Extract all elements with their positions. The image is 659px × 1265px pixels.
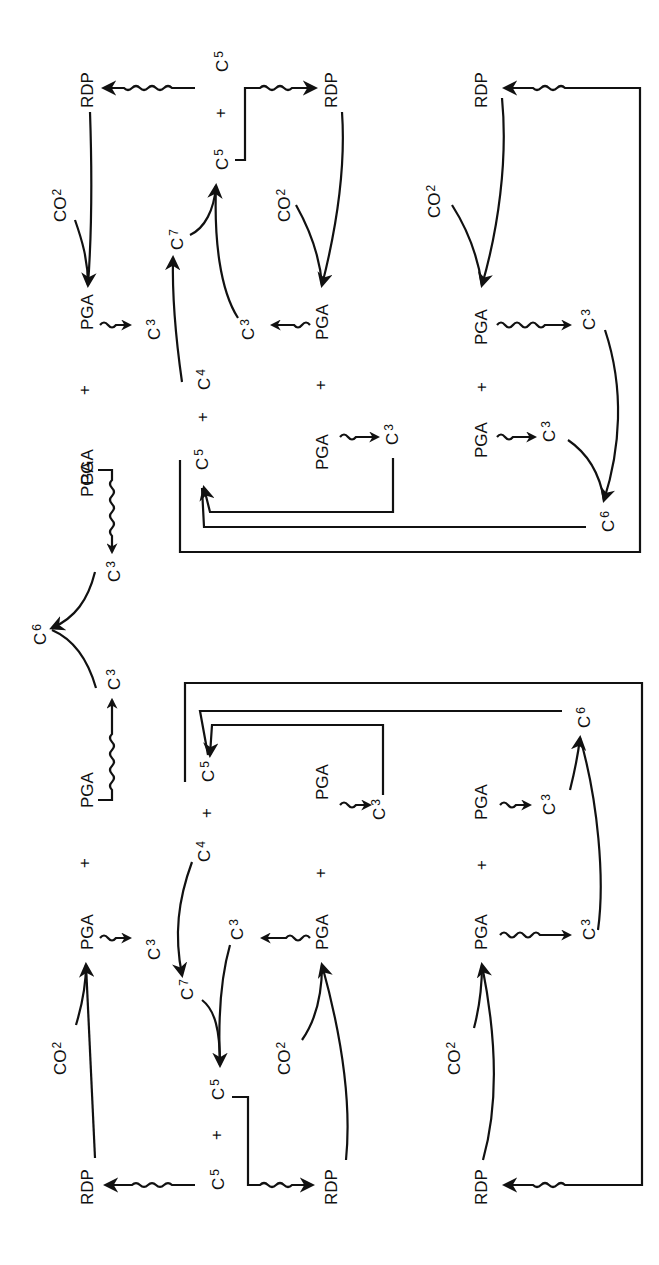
arrow (604, 330, 618, 500)
arrow (52, 572, 95, 628)
label-c3: C3 (579, 919, 599, 940)
arrow (52, 630, 96, 688)
label-c3: C3 (144, 939, 164, 960)
label-pga: PGA (472, 913, 491, 950)
label-co2: CO2 (50, 1042, 70, 1076)
wavy-arrow (106, 1183, 195, 1187)
label-c5: C5 (208, 1169, 228, 1190)
top-half: RDP CO2 PGA + PGA C3 C4 C7 C5 + C5 + C5 … (50, 51, 640, 552)
arrow (76, 965, 86, 1025)
wavy-arrow (100, 936, 130, 941)
label-plus: + (311, 380, 330, 390)
label-c3: C3 (382, 424, 402, 445)
label-plus: + (193, 412, 212, 422)
label-plus: + (75, 858, 94, 868)
label-pga: PGA (472, 783, 491, 820)
label-c5: C5 (208, 1079, 228, 1100)
label-pga: PGA (313, 303, 332, 340)
center-section: PGA C3 C6 C3 PGA (30, 448, 124, 808)
label-pga: PGA (78, 448, 97, 485)
label-c5: C5 (212, 149, 232, 170)
label-pga: PGA (78, 771, 97, 808)
arrow (296, 205, 322, 285)
label-c5: C5 (212, 51, 232, 72)
label-c4: C4 (194, 841, 214, 862)
label-co2: CO2 (274, 1042, 294, 1076)
label-pga: PGA (313, 433, 332, 470)
arrow (474, 965, 482, 1028)
wavy-arrow (272, 323, 310, 328)
label-co2: CO2 (50, 189, 70, 223)
label-c3: C3 (227, 919, 247, 940)
feedback-line (210, 725, 383, 795)
outer-loop (180, 86, 640, 552)
feedback-line (200, 711, 562, 755)
label-plus: + (211, 108, 230, 118)
arrow (190, 186, 216, 235)
label-c3: C3 (238, 319, 258, 340)
wavy-arrow (235, 86, 315, 160)
label-c3: C3 (144, 319, 164, 340)
wavy-arrow (340, 803, 370, 808)
calvin-cycle-diagram: RDP CO2 PGA + PGA C3 C4 C7 C5 + C5 + C5 … (0, 0, 659, 1265)
arrow (322, 112, 343, 285)
arrow (173, 258, 182, 382)
label-co2: CO2 (424, 185, 444, 219)
label-plus: + (207, 1130, 226, 1140)
label-plus: + (472, 860, 491, 870)
label-plus: + (75, 385, 94, 395)
arrow (178, 862, 192, 975)
label-pga: PGA (472, 308, 491, 345)
label-c3: C3 (579, 309, 599, 330)
wavy-arrow (497, 435, 535, 440)
arrow (482, 98, 504, 285)
label-co2: CO2 (444, 1042, 464, 1076)
outer-loop (185, 683, 642, 1187)
label-rdp: RDP (472, 1169, 491, 1205)
wavy-arrow (232, 1097, 312, 1187)
label-c3: C3 (104, 669, 124, 690)
wavy-arrow (500, 803, 530, 808)
label-c4: C4 (194, 369, 214, 390)
label-pga: PGA (78, 913, 97, 950)
label-c7: C7 (167, 229, 187, 250)
arrow (219, 945, 230, 1065)
label-plus: + (197, 808, 216, 818)
label-rdp: RDP (322, 1169, 341, 1205)
label-rdp: RDP (78, 72, 97, 108)
label-co2: CO2 (274, 189, 294, 223)
arrow (568, 440, 604, 500)
label-pga: PGA (313, 763, 332, 800)
wavy-arrow (497, 323, 570, 328)
label-rdp: RDP (78, 1169, 97, 1205)
arrow (88, 112, 91, 285)
label-c3: C3 (539, 421, 559, 442)
arrow (322, 965, 348, 1160)
label-c6: C6 (30, 624, 50, 645)
arrow (570, 738, 580, 790)
label-c6: C6 (598, 511, 618, 532)
label-c5: C5 (198, 761, 218, 782)
label-rdp: RDP (322, 72, 341, 108)
wavy-arrow (98, 700, 114, 800)
bottom-half: + PGA CO2 RDP C3 C4 + C5 C7 C3 C5 + C5 P… (50, 683, 642, 1205)
label-rdp: RDP (472, 72, 491, 108)
wavy-arrow (500, 933, 570, 938)
label-plus: + (311, 868, 330, 878)
label-c6: C6 (574, 707, 594, 728)
label-c3: C3 (104, 561, 124, 582)
label-c3: C3 (369, 799, 389, 820)
label-pga: PGA (78, 293, 97, 330)
wavy-arrow (340, 435, 378, 440)
arrow (216, 186, 238, 318)
wavy-arrow (262, 936, 310, 941)
label-c7: C7 (177, 979, 197, 1000)
arrow (580, 738, 601, 930)
wavy-arrow (100, 323, 130, 328)
label-pga: PGA (472, 421, 491, 458)
arrow (452, 205, 482, 285)
label-c3: C3 (539, 794, 559, 815)
label-plus: + (472, 382, 491, 392)
wavy-arrow (104, 86, 195, 90)
feedback-line (204, 458, 393, 512)
